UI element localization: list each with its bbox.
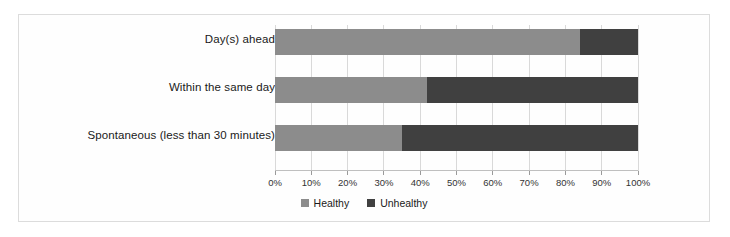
bar-row[interactable] [275,29,638,55]
x-tick-label-0: 0% [268,178,282,188]
x-tick-90 [601,171,602,175]
legend-swatch-icon [301,199,309,207]
bar-row[interactable] [275,125,638,151]
plot-area [275,25,638,171]
x-tick-60 [492,171,493,175]
x-tick-50 [456,171,457,175]
x-tick-label-100: 100% [626,178,650,188]
x-tick-label-40: 40% [411,178,430,188]
legend-item-unhealthy[interactable]: Unhealthy [367,198,427,209]
bar-segment-healthy[interactable] [275,125,402,151]
bar-segment-unhealthy[interactable] [580,29,638,55]
chart-legend: HealthyUnhealthy [19,198,709,209]
x-tick-80 [565,171,566,175]
x-tick-label-70: 70% [520,178,539,188]
bar-segment-unhealthy[interactable] [402,125,638,151]
x-tick-30 [383,171,384,175]
bar-segment-healthy[interactable] [275,77,427,103]
x-tick-70 [529,171,530,175]
bar-segment-unhealthy[interactable] [427,77,638,103]
x-tick-100 [638,171,639,175]
bar-row[interactable] [275,77,638,103]
legend-item-healthy[interactable]: Healthy [301,198,350,209]
legend-swatch-icon [367,199,375,207]
x-tick-40 [420,171,421,175]
bar-segment-healthy[interactable] [275,29,580,55]
x-tick-label-30: 30% [374,178,393,188]
x-axis-tick-labels: 0%10%20%30%40%50%60%70%80%90%100% [275,178,638,192]
chart-card: Day(s) ahead Within the same day Spontan… [18,14,710,222]
legend-label: Unhealthy [380,198,427,209]
category-axis: Day(s) ahead Within the same day Spontan… [29,25,275,171]
x-tick-label-10: 10% [302,178,321,188]
x-tick-20 [347,171,348,175]
category-label-1: Within the same day [29,82,275,94]
x-tick-label-50: 50% [447,178,466,188]
x-tick-label-20: 20% [338,178,357,188]
x-tick-label-60: 60% [483,178,502,188]
x-tick-label-90: 90% [592,178,611,188]
x-tick-0 [275,171,276,175]
category-label-0: Day(s) ahead [29,34,275,46]
chart-plot-wrapper: Day(s) ahead Within the same day Spontan… [19,15,709,221]
x-tick-10 [311,171,312,175]
category-label-2: Spontaneous (less than 30 minutes) [29,130,275,142]
x-tick-label-80: 80% [556,178,575,188]
legend-label: Healthy [314,198,350,209]
